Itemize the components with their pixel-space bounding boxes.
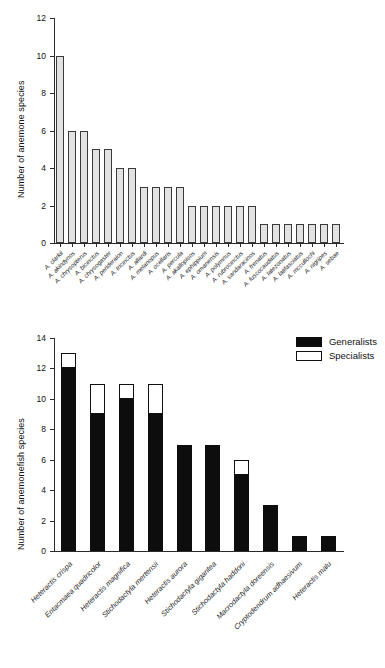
y-axis-tick-label: 2 <box>26 202 46 211</box>
bar <box>56 56 63 244</box>
x-axis-tick <box>276 243 277 247</box>
y-axis-tick <box>50 551 54 552</box>
y-axis-tick <box>50 93 54 94</box>
bar <box>320 224 327 243</box>
bar <box>260 224 267 243</box>
legend-label-generalists: Generalists <box>329 336 377 347</box>
bar-segment-generalists <box>148 414 163 551</box>
bar <box>80 131 87 244</box>
x-axis-tick <box>300 243 301 247</box>
bottom-x-axis-line <box>54 551 344 552</box>
y-axis-tick <box>50 168 54 169</box>
bar-segment-generalists <box>177 445 192 552</box>
y-axis-tick-label: 14 <box>26 334 46 343</box>
y-axis-tick-label: 2 <box>26 517 46 526</box>
y-axis-tick-label: 0 <box>26 547 46 556</box>
bar <box>332 224 339 243</box>
y-axis-tick <box>50 338 54 339</box>
y-axis-tick-label: 12 <box>26 364 46 373</box>
bar-segment-generalists <box>234 475 249 551</box>
legend-swatch-generalists-icon <box>296 337 322 347</box>
y-axis-tick <box>50 56 54 57</box>
x-axis-tick <box>72 243 73 247</box>
bar-segment-generalists <box>119 399 134 551</box>
y-axis-tick-label: 4 <box>26 486 46 495</box>
bar <box>92 149 99 243</box>
anemone-species-chart-panel: Number of anemone species 024681012 A. c… <box>0 0 385 310</box>
bar-segment-generalists <box>90 414 105 551</box>
bar <box>104 149 111 243</box>
x-axis-tick <box>216 243 217 247</box>
y-axis-tick <box>50 368 54 369</box>
y-axis-tick-label: 8 <box>26 425 46 434</box>
y-axis-tick <box>50 521 54 522</box>
y-axis-tick-label: 6 <box>26 127 46 136</box>
bar <box>140 187 147 243</box>
bar <box>284 224 291 243</box>
bar-segment-specialists <box>90 384 105 414</box>
y-axis-tick-label: 4 <box>26 164 46 173</box>
bar-segment-specialists <box>234 460 249 475</box>
anemonefish-species-chart-panel: Number of anemonefish species 0246810121… <box>0 320 385 668</box>
y-axis-tick <box>50 206 54 207</box>
x-axis-tick <box>108 243 109 247</box>
legend-label-specialists: Specialists <box>329 350 374 361</box>
bar <box>224 206 231 244</box>
x-axis-tick <box>192 243 193 247</box>
y-axis-tick-label: 12 <box>26 14 46 23</box>
bar <box>176 187 183 243</box>
bar <box>164 187 171 243</box>
x-axis-tick <box>312 243 313 247</box>
bar <box>128 168 135 243</box>
x-axis-tick <box>336 243 337 247</box>
bar <box>296 224 303 243</box>
y-axis-tick <box>50 460 54 461</box>
y-axis-tick-label: 8 <box>26 89 46 98</box>
x-axis-tick <box>96 243 97 247</box>
bar <box>308 224 315 243</box>
legend-item-generalists: Generalists <box>296 336 377 347</box>
top-y-axis-title: Number of anemone species <box>16 80 26 198</box>
x-axis-tick <box>84 243 85 247</box>
bar-segment-specialists <box>119 384 134 399</box>
top-plot-area: Number of anemone species 024681012 A. c… <box>0 0 385 310</box>
y-axis-tick-label: 6 <box>26 456 46 465</box>
legend-swatch-specialists-icon <box>296 351 322 361</box>
bar <box>152 187 159 243</box>
series-legend: Generalists Specialists <box>296 336 377 361</box>
x-axis-tick <box>120 243 121 247</box>
y-axis-tick-label: 10 <box>26 395 46 404</box>
bar <box>68 131 75 244</box>
bar <box>116 168 123 243</box>
bar-segment-specialists <box>61 353 76 368</box>
y-axis-tick <box>50 399 54 400</box>
x-axis-tick <box>132 243 133 247</box>
legend-item-specialists: Specialists <box>296 350 377 361</box>
y-axis-tick-label: 0 <box>26 239 46 248</box>
x-axis-tick <box>240 243 241 247</box>
x-axis-tick <box>228 243 229 247</box>
x-axis-tick <box>180 243 181 247</box>
x-axis-tick <box>168 243 169 247</box>
x-axis-tick <box>144 243 145 247</box>
x-axis-tick <box>324 243 325 247</box>
bar-segment-generalists <box>292 536 307 551</box>
x-axis-tick <box>204 243 205 247</box>
bottom-plot-area: Number of anemonefish species 0246810121… <box>0 320 385 668</box>
bar <box>236 206 243 244</box>
bottom-y-axis-line <box>54 338 55 552</box>
bar-segment-generalists <box>61 368 76 551</box>
bottom-y-axis-title: Number of anemonefish species <box>16 418 26 550</box>
x-axis-tick <box>264 243 265 247</box>
bar-segment-generalists <box>205 445 220 552</box>
y-axis-tick <box>50 429 54 430</box>
bar <box>272 224 279 243</box>
bar <box>248 206 255 244</box>
bar <box>212 206 219 244</box>
x-axis-tick <box>60 243 61 247</box>
y-axis-tick <box>50 243 54 244</box>
y-axis-tick <box>50 18 54 19</box>
bar <box>200 206 207 244</box>
bar-segment-generalists <box>321 536 336 551</box>
x-axis-tick <box>252 243 253 247</box>
